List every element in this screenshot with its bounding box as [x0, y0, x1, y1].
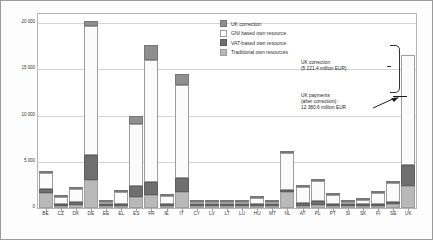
- chart-legend: UK correction GNI based own resource VAT…: [220, 20, 340, 58]
- bar-lu[interactable]: [235, 200, 249, 208]
- x-axis-label-at: AT: [295, 211, 311, 216]
- legend-swatch-icon-gni: [220, 30, 227, 37]
- bar-segment-vat: [84, 155, 98, 180]
- legend-item-traditional: Traditional own resources: [220, 49, 340, 56]
- x-axis-label-fi: FI: [370, 211, 386, 216]
- x-axis-label-it: IT: [174, 211, 190, 216]
- bar-segment-corr: [175, 74, 189, 85]
- bar-uk[interactable]: [401, 55, 415, 208]
- bar-segment-trad: [39, 193, 53, 208]
- bar-at[interactable]: [296, 185, 310, 208]
- bar-si[interactable]: [341, 200, 355, 208]
- bar-hu[interactable]: [250, 196, 264, 208]
- bar-segment-vat: [129, 186, 143, 197]
- x-axis-label-nl: NL: [279, 211, 295, 216]
- bar-segment-gni: [129, 124, 143, 187]
- y-axis-tick-label: 10 000: [3, 112, 35, 117]
- bar-dk[interactable]: [69, 187, 83, 208]
- bar-segment-gni: [114, 192, 128, 203]
- bar-cy[interactable]: [190, 200, 204, 208]
- legend-swatch-icon-uk-correction: [220, 20, 227, 27]
- bar-segment-vat: [175, 178, 189, 191]
- bar-segment-trad: [401, 186, 415, 208]
- bar-pt[interactable]: [326, 193, 340, 208]
- bar-segment-gni: [69, 189, 83, 203]
- x-axis-label-lv: LV: [204, 211, 220, 216]
- x-axis-label-be: BE: [38, 211, 54, 216]
- x-axis-label-hu: HU: [249, 211, 265, 216]
- bar-fi[interactable]: [371, 191, 385, 208]
- y-axis-labels: 05 00010 00015 00020 000: [1, 13, 37, 209]
- bar-segment-trad: [280, 192, 294, 208]
- legend-item-gni: GNI based own resource: [220, 30, 340, 37]
- x-axis-label-de: DE: [83, 211, 99, 216]
- bar-segment-gni: [296, 187, 310, 203]
- bar-segment-gni: [160, 196, 174, 204]
- x-axis-label-si: SI: [340, 211, 356, 216]
- bar-segment-gni: [311, 181, 325, 200]
- bar-segment-gni: [39, 173, 53, 189]
- chart-container: 05 00010 00015 00020 000 BECZDKDEEEELESF…: [0, 0, 433, 240]
- bar-lv[interactable]: [205, 200, 219, 208]
- bar-segment-trad: [175, 192, 189, 208]
- x-axis-label-pl: PL: [310, 211, 326, 216]
- x-axis-label-pt: PT: [325, 211, 341, 216]
- y-axis-tick-label: 0: [3, 204, 35, 209]
- bar-ee[interactable]: [99, 200, 113, 208]
- bar-segment-trad: [129, 197, 143, 208]
- x-axis-label-es: ES: [128, 211, 144, 216]
- bar-segment-vat: [401, 165, 415, 186]
- uk-payments-leader-arrow: [373, 97, 399, 109]
- y-axis-tick-label: 20 000: [3, 19, 35, 24]
- x-axis-label-lt: LT: [219, 211, 235, 216]
- x-axis-label-sk: SK: [355, 211, 371, 216]
- x-axis-label-cy: CY: [189, 211, 205, 216]
- legend-swatch-icon-vat: [220, 39, 227, 46]
- x-axis-label-mt: MT: [264, 211, 280, 216]
- legend-item-vat: VAT-based own resource: [220, 39, 340, 46]
- bar-segment-corr: [129, 116, 143, 123]
- bar-segment-gni: [144, 60, 158, 182]
- bar-be[interactable]: [39, 171, 53, 208]
- x-axis-label-el: EL: [113, 211, 129, 216]
- bar-segment-vat: [144, 182, 158, 195]
- bar-cz[interactable]: [54, 195, 68, 208]
- bar-segment-corr: [144, 45, 158, 59]
- legend-swatch-icon-traditional: [220, 49, 227, 56]
- uk-correction-brace-tip: [387, 66, 391, 67]
- bar-nl[interactable]: [280, 151, 294, 208]
- bar-segment-trad: [144, 195, 158, 208]
- x-axis-label-ie: IE: [159, 211, 175, 216]
- bar-fr[interactable]: [144, 45, 158, 208]
- bar-segment-trad: [84, 180, 98, 208]
- x-axis-label-fr: FR: [143, 211, 159, 216]
- bar-segment-gni: [84, 26, 98, 155]
- legend-label-gni: GNI based own resource: [231, 30, 286, 36]
- y-axis-tick-label: 5 000: [3, 158, 35, 163]
- bar-es[interactable]: [129, 116, 143, 208]
- x-axis-label-cz: CZ: [53, 211, 69, 216]
- bar-segment-gni: [54, 197, 68, 204]
- y-axis-tick-label: 15 000: [3, 65, 35, 70]
- bar-sk[interactable]: [356, 198, 370, 208]
- bar-el[interactable]: [114, 190, 128, 208]
- legend-item-uk-correction: UK correction: [220, 20, 340, 27]
- bar-segment-gni: [326, 195, 340, 204]
- annotation-uk-payments: UK payments (after correction): 12 380.6…: [301, 93, 377, 112]
- bar-pl[interactable]: [311, 179, 325, 208]
- bar-it[interactable]: [175, 74, 189, 208]
- bar-segment-gni: [175, 85, 189, 178]
- legend-label-traditional: Traditional own resources: [231, 49, 288, 55]
- bar-segment-gni: [401, 55, 415, 165]
- legend-label-vat: VAT-based own resource: [231, 40, 286, 46]
- x-axis-label-dk: DK: [68, 211, 84, 216]
- bar-mt[interactable]: [265, 200, 279, 208]
- bar-ie[interactable]: [160, 194, 174, 208]
- x-axis-label-uk: UK: [400, 211, 416, 216]
- x-axis-label-ee: EE: [98, 211, 114, 216]
- bar-segment-gni: [386, 183, 400, 201]
- bar-lt[interactable]: [220, 200, 234, 208]
- bar-se[interactable]: [386, 181, 400, 208]
- x-axis-labels: BECZDKDEEEELESFRIEITCYLVLTLUHUMTNLATPLPT…: [38, 211, 416, 225]
- bar-de[interactable]: [84, 21, 98, 208]
